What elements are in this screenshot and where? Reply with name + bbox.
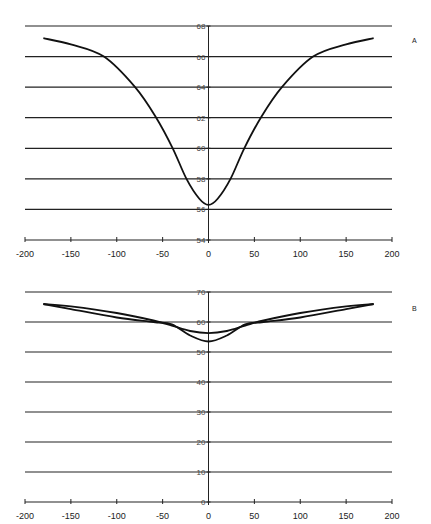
y-tick-label: 66 — [197, 53, 206, 62]
y-tick-label: 70 — [197, 288, 206, 297]
x-tick-label: -150 — [62, 249, 80, 259]
x-tick-label: 50 — [249, 249, 259, 259]
y-tick-label: 64 — [197, 83, 206, 92]
x-tick-label: 50 — [249, 511, 259, 521]
x-tick-label: -50 — [156, 511, 169, 521]
y-tick-label: 68 — [197, 22, 206, 31]
y-tick-label: 30 — [197, 408, 206, 417]
y-tick-label: 50 — [197, 348, 206, 357]
y-tick-label: 62 — [197, 114, 206, 123]
x-tick-label: 0 — [206, 249, 211, 259]
x-tick-label: 150 — [339, 511, 354, 521]
chart-figure: 5456586062646668-200-150-100-50050100150… — [0, 0, 431, 524]
x-tick-label: 100 — [293, 249, 308, 259]
y-tick-label: 10 — [197, 468, 206, 477]
x-tick-label: -200 — [16, 249, 34, 259]
x-tick-label: -200 — [16, 511, 34, 521]
x-tick-label: -150 — [62, 511, 80, 521]
panel-label: A — [412, 37, 417, 44]
x-tick-label: 200 — [384, 511, 399, 521]
x-tick-label: 200 — [384, 249, 399, 259]
y-tick-label: 58 — [197, 175, 206, 184]
y-tick-label: 56 — [197, 205, 206, 214]
y-tick-label: 20 — [197, 438, 206, 447]
x-tick-label: -50 — [156, 249, 169, 259]
y-tick-label: 60 — [197, 144, 206, 153]
chart-panel-b: 010203040506070-200-150-100-500501001502… — [16, 288, 417, 521]
x-tick-label: -100 — [108, 511, 126, 521]
x-tick-label: 0 — [206, 511, 211, 521]
y-tick-label: 60 — [197, 318, 206, 327]
y-tick-label: 40 — [197, 378, 206, 387]
chart-panel-a: 5456586062646668-200-150-100-50050100150… — [16, 22, 417, 259]
x-tick-label: 100 — [293, 511, 308, 521]
x-tick-label: -100 — [108, 249, 126, 259]
x-tick-label: 150 — [339, 249, 354, 259]
panel-label: B — [412, 305, 417, 312]
